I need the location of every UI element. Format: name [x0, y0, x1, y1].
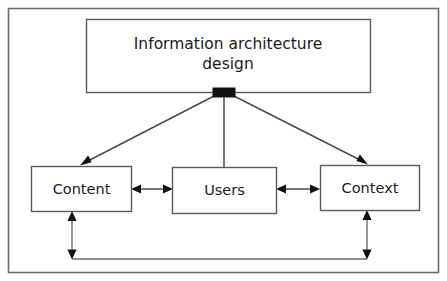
- connector-content-context-bottom: [67, 210, 371, 260]
- arrowhead-left-users-context: [276, 184, 286, 193]
- figure-container: Information architecture design Content …: [0, 0, 447, 281]
- arrowhead-up-content: [67, 211, 76, 221]
- node-label-users: Users: [204, 182, 245, 198]
- node-label-root-line2: design: [202, 55, 253, 73]
- node-context[interactable]: Context: [321, 166, 420, 211]
- connector-root-to-content: [80, 96, 214, 166]
- arrowhead-down-left: [67, 250, 76, 260]
- node-label-context: Context: [342, 180, 399, 196]
- junction-block-icon: [213, 88, 235, 97]
- node-label-root-line1: Information architecture: [134, 35, 322, 53]
- arrowhead-down-right: [362, 250, 371, 260]
- diagram-canvas: Information architecture design Content …: [0, 0, 447, 281]
- node-label-content: Content: [53, 181, 111, 197]
- arrowhead-content: [80, 155, 92, 165]
- node-users[interactable]: Users: [173, 168, 277, 214]
- connector-users-context: [276, 184, 320, 193]
- arrowhead-right-content-users: [163, 184, 173, 193]
- arrowhead-up-context: [362, 210, 371, 220]
- connector-content-users: [131, 184, 173, 193]
- node-content[interactable]: Content: [32, 167, 132, 212]
- connector-root-to-context: [234, 96, 368, 165]
- node-information-architecture-design[interactable]: Information architecture design: [87, 20, 371, 93]
- arrowhead-left-content-users: [131, 184, 141, 193]
- arrowhead-context: [356, 154, 368, 164]
- arrowhead-right-users-context: [310, 184, 320, 193]
